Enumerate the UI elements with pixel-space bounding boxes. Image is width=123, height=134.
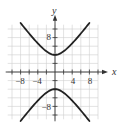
- x-axis-arrow-icon: [102, 70, 108, 74]
- tick-labels: −8 −4 4 8 8 −8 x y: [15, 5, 117, 112]
- y-tick-label-8: 8: [47, 32, 52, 42]
- axes: [6, 15, 108, 122]
- x-tick-label-4: 4: [71, 76, 76, 86]
- x-tick-label-8: 8: [88, 76, 93, 86]
- x-tick-label-neg4: −4: [32, 76, 42, 86]
- y-axis-label: y: [51, 5, 57, 16]
- y-tick-label-neg8: −8: [41, 102, 51, 112]
- hyperbola-graph: −8 −4 4 8 8 −8 x y: [0, 0, 123, 134]
- x-axis-label: x: [111, 66, 117, 77]
- x-tick-label-neg8: −8: [15, 76, 25, 86]
